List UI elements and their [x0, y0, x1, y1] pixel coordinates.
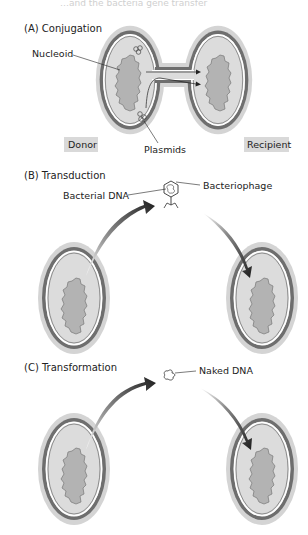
panel-title-conjugation: (A) Conjugation: [24, 23, 102, 34]
label-bacteriophage: Bacteriophage: [203, 180, 272, 191]
gene-transfer-diagram: …and the bacteria gene transfer (A) Conj…: [0, 0, 308, 535]
panel-title-transformation: (C) Transformation: [24, 362, 117, 373]
panel-conjugation: (A) Conjugation: [24, 23, 291, 155]
leader-bacterial-dna: [128, 189, 166, 195]
panel-title-transduction: (B) Transduction: [24, 170, 106, 181]
leader-bacteriophage: [176, 182, 200, 185]
label-nucleoid: Nucleoid: [32, 48, 73, 59]
label-plasmids: Plasmids: [144, 144, 186, 155]
leader-plasmids: [144, 121, 158, 143]
label-recipient: Recipient: [247, 139, 291, 150]
leader-naked-dna: [175, 371, 196, 373]
label-naked-dna: Naked DNA: [199, 365, 253, 376]
bacteriophage-icon: [164, 181, 178, 208]
label-donor: Donor: [68, 139, 97, 150]
label-bacterial-dna: Bacterial DNA: [63, 190, 130, 201]
naked-dna-icon: [164, 370, 175, 380]
panel-transformation: (C) Transformation Naked DNA: [24, 362, 298, 525]
top-cutoff-text: …and the bacteria gene transfer: [60, 0, 207, 8]
panel-transduction: (B) Transduction Bacterial DNA Bacteriop…: [24, 170, 298, 354]
